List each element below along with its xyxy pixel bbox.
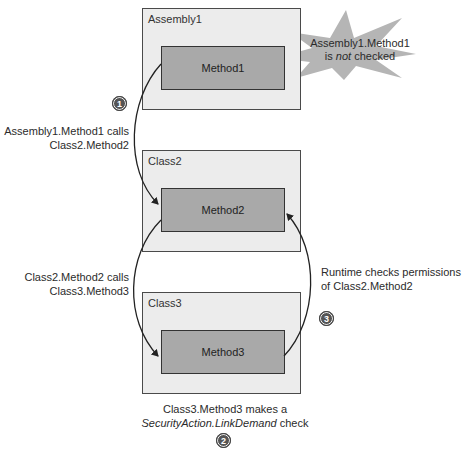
arrow-method2-to-method3 (134, 220, 161, 356)
step3-note: Runtime checks permissions of Class2.Met… (321, 265, 463, 293)
step1-note: Assembly1.Method1 calls Class2.Method2 (0, 124, 129, 152)
arrows-layer (0, 0, 463, 458)
step2-note: Class3.Method3 makes a SecurityAction.Li… (130, 402, 320, 430)
step2-number-icon: 2 (217, 434, 230, 447)
step3-number-icon: 3 (320, 312, 333, 325)
class2-calls-class3-note: Class2.Method2 calls Class3.Method3 (0, 270, 129, 298)
step1-number-icon: 1 (113, 97, 126, 110)
arrow-method1-to-method2 (134, 64, 161, 204)
arrow-method3-to-method2 (284, 214, 311, 356)
